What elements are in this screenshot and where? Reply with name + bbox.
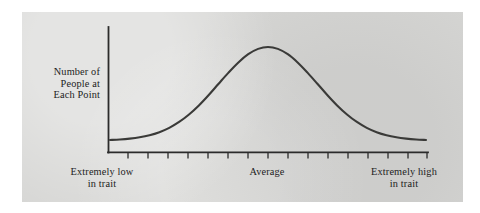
x-axis-label-average-line1: Average [249, 166, 284, 177]
x-axis-label-low: Extremely low in trait [46, 166, 158, 189]
x-axis-ticks [128, 153, 427, 159]
y-axis-label: Number of People at Each Point [22, 66, 100, 101]
distribution-curve [110, 47, 426, 140]
y-axis-label-line1: Number of [54, 66, 100, 77]
y-axis-label-line2: People at [61, 78, 100, 89]
x-axis-label-low-line2: in trait [46, 178, 158, 190]
x-axis-label-high-line2: in trait [346, 178, 462, 190]
x-axis-label-high: Extremely high in trait [346, 166, 462, 189]
y-axis-label-line3: Each Point [54, 89, 100, 100]
figure-root: Number of People at Each Point Extremely… [0, 0, 480, 213]
x-axis-label-low-line1: Extremely low [71, 166, 134, 177]
x-axis-label-average: Average [212, 166, 322, 178]
x-axis-label-high-line1: Extremely high [371, 166, 437, 177]
